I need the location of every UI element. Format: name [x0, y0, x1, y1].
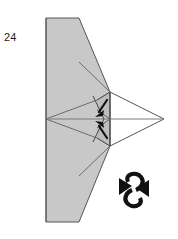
origami-step-diagram: 24: [0, 0, 178, 239]
paper-body-group: [46, 18, 110, 222]
turn-over-symbol: [119, 174, 149, 206]
turn-over-lower-curve: [125, 190, 140, 206]
origami-figure: [0, 0, 178, 239]
